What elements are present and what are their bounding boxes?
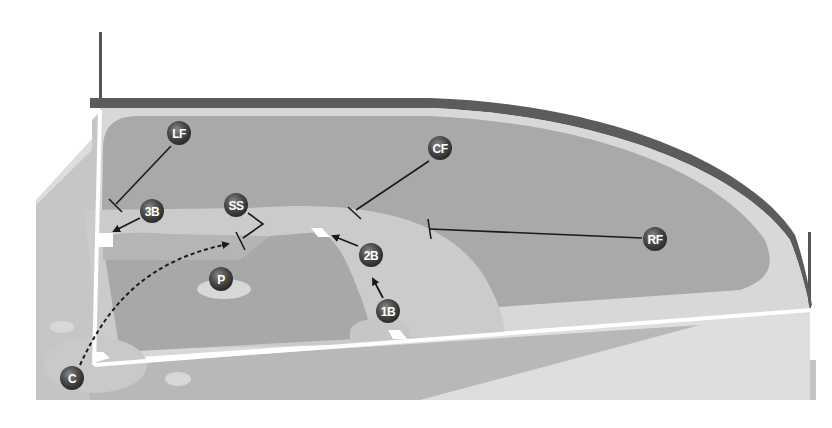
on-deck-circle-left xyxy=(50,321,74,333)
on-deck-circle-right xyxy=(165,372,191,386)
player-label: P xyxy=(217,273,225,287)
player-label: CF xyxy=(433,142,448,156)
player-p[interactable]: P xyxy=(209,267,233,291)
player-lf[interactable]: LF xyxy=(167,121,191,145)
player-ss[interactable]: SS xyxy=(224,193,248,217)
third-base xyxy=(98,233,113,247)
player-rf[interactable]: RF xyxy=(643,227,667,251)
player-label: RF xyxy=(648,233,663,247)
player-label: LF xyxy=(172,127,186,141)
player-label: 1B xyxy=(381,305,396,319)
player-label: 3B xyxy=(145,205,160,219)
player-cf[interactable]: CF xyxy=(428,136,452,160)
player-2b[interactable]: 2B xyxy=(359,243,383,267)
player-3b[interactable]: 3B xyxy=(140,199,164,223)
player-1b[interactable]: 1B xyxy=(376,299,400,323)
player-label: SS xyxy=(228,199,244,213)
player-c[interactable]: C xyxy=(60,366,84,390)
baseball-field-diagram: LF CF RF 3B SS 2B 1B P C xyxy=(0,0,832,428)
left-foul-pole xyxy=(99,32,102,102)
player-label: 2B xyxy=(364,249,379,263)
player-label: C xyxy=(68,372,77,386)
